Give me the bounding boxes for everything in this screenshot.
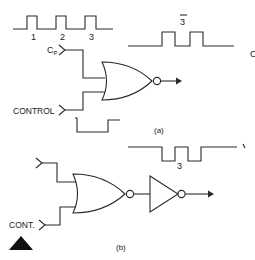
control-input-label-b: CONT.	[9, 220, 35, 230]
pulse-label-3: 3	[89, 32, 94, 42]
pulse-label-2: 2	[60, 32, 65, 42]
clock-input-wire	[65, 50, 105, 78]
nor-gate-a-bubble	[153, 77, 160, 84]
clock-gating-diagram: 1 2 3 CP CONTROL (a) 3 C CONT. 3 (b)	[0, 0, 255, 260]
output-waveform-a-trailing-label: C	[250, 49, 255, 59]
clock-input-chevron-b	[36, 158, 42, 168]
gated-clock-waveform-a	[128, 32, 234, 46]
arrow-head-b	[208, 191, 214, 198]
control-input-chevron-b	[39, 220, 45, 230]
caption-a: (a)	[154, 126, 164, 135]
clock-input-chevron	[59, 45, 65, 55]
control-input-label: CONTROL	[13, 106, 55, 116]
control-waveform	[75, 118, 120, 132]
output-waveform-a-label: 3	[180, 17, 185, 27]
clock-waveform	[13, 16, 113, 29]
inverter-gate-b	[150, 176, 178, 212]
nor-gate-b	[73, 174, 125, 213]
corner-triangle-marker	[9, 236, 33, 250]
clock-input-label: CP	[47, 45, 58, 56]
pulse-label-1: 1	[31, 32, 36, 42]
arrow-head-a	[176, 78, 182, 85]
control-input-wire-b	[45, 207, 76, 225]
caption-b: (b)	[116, 243, 126, 252]
output-waveform-b-label: 3	[177, 161, 182, 171]
waveform-b-trailing-mark	[243, 144, 245, 148]
nor-gate-a	[102, 62, 152, 100]
nor-gate-b-bubble	[126, 190, 133, 197]
gated-clock-waveform-b	[128, 147, 237, 161]
control-input-chevron	[59, 105, 65, 115]
clock-input-wire-b	[42, 163, 76, 182]
control-input-wire	[65, 92, 105, 110]
